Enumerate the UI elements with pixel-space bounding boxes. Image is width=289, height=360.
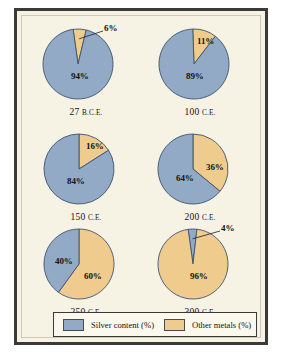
year-value-0: 27 [69,107,79,117]
pie-chart-300-ce: 96% 4% [145,223,255,307]
pie-chart-150-ce: 84% 16% [31,128,141,212]
pie-chart-100-ce: 89% 11% [145,23,255,107]
pie-cell-1: 89% 11% 100 C.E. [145,23,255,123]
legend-swatch-other [164,319,185,331]
slice-label-silver-4: 40% [55,256,73,266]
legend-item-silver: Silver content (%) [54,319,155,331]
slice-label-silver-3: 64% [176,173,194,183]
year-label-0: 27 B.C.E. [31,107,141,117]
year-value-2: 150 [70,212,85,222]
slice-label-other-1: 11% [197,36,214,46]
legend-item-other: Other metals (%) [155,319,256,331]
pie-svg-5 [145,223,255,307]
pie-cell-0: 94% 6% 27 B.C.E. [31,23,141,123]
pie-chart-27-bce: 94% 6% [31,23,141,107]
year-value-3: 200 [184,212,199,222]
legend-label-other: Other metals (%) [192,320,251,330]
pie-svg-3 [145,128,255,212]
year-era-1: C.E. [202,109,216,117]
pie-svg-0 [31,23,141,107]
pie-cell-2: 84% 16% 150 C.E. [31,128,141,228]
pie-svg-4 [31,223,141,307]
callout-label-other-0: 6% [104,23,118,33]
year-label-1: 100 C.E. [145,107,255,117]
slice-label-silver-1: 89% [186,71,204,81]
slice-label-other-2: 16% [86,141,104,151]
year-era-0: B.C.E. [82,109,103,117]
chart-legend: Silver content (%) Other metals (%) [53,312,257,337]
slice-label-other-3: 36% [206,162,224,172]
legend-swatch-silver [63,319,84,331]
year-era-3: C.E. [202,214,216,222]
pie-chart-200-ce: 64% 36% [145,128,255,212]
pie-cell-4: 40% 60% 250 C.E. [31,223,141,323]
year-value-1: 100 [184,107,199,117]
slice-label-other-5: 96% [190,271,208,281]
year-label-2: 150 C.E. [31,212,141,222]
chart-figure-frame: 94% 6% 27 B.C.E. 89% 11% 100 C.E. 84% 16… [14,8,268,345]
slice-label-other-4: 60% [84,271,102,281]
callout-label-silver-5: 4% [221,223,235,233]
legend-label-silver: Silver content (%) [91,320,154,330]
slice-label-silver-0: 94% [71,71,89,81]
pie-cell-5: 96% 4% 300 C.E. [145,223,255,323]
pie-chart-250-ce: 40% 60% [31,223,141,307]
year-label-3: 200 C.E. [145,212,255,222]
year-era-2: C.E. [88,214,102,222]
slice-label-silver-2: 84% [67,176,85,186]
pie-cell-3: 64% 36% 200 C.E. [145,128,255,228]
